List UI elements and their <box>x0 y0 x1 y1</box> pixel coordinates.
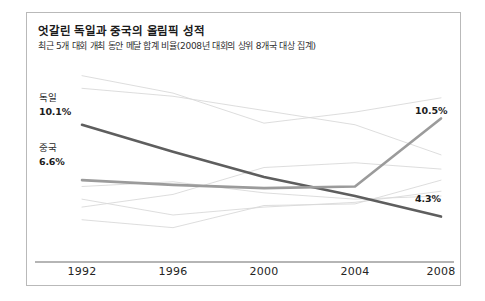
china-start-value: 6.6% <box>39 156 65 167</box>
slope-chart-plot <box>27 13 462 287</box>
chart-card: 엇갈린 독일과 중국의 올림픽 성적 최근 5개 대회 개최 동안 메달 합계 … <box>26 12 461 286</box>
series-line-6 <box>82 182 441 199</box>
x-tick-2004: 2004 <box>325 265 385 278</box>
highlight-series-group <box>82 118 441 216</box>
series-line-3 <box>82 88 441 155</box>
germany-series-name: 독일 <box>39 90 71 104</box>
germany-start-value: 10.1% <box>39 106 71 117</box>
china-start-label: 중국 6.6% <box>39 140 65 167</box>
x-tick-2008: 2008 <box>411 265 471 278</box>
series-line-0 <box>82 125 441 217</box>
series-line-4 <box>82 163 441 207</box>
series-line-2 <box>82 76 441 124</box>
x-tick-2000: 2000 <box>234 265 294 278</box>
china-end-value-label: 10.5% <box>415 105 447 116</box>
x-tick-1992: 1992 <box>52 265 112 278</box>
germany-end-value-label: 4.3% <box>415 193 441 204</box>
china-series-name: 중국 <box>39 140 65 154</box>
germany-start-label: 독일 10.1% <box>39 90 71 117</box>
x-tick-1996: 1996 <box>143 265 203 278</box>
